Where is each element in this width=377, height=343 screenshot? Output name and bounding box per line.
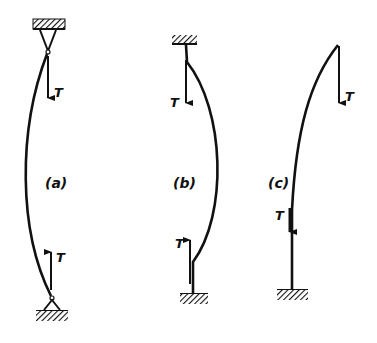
top-support-a bbox=[33, 19, 65, 29]
force-label-top-c: T bbox=[345, 89, 355, 104]
bottom-support-a bbox=[36, 311, 68, 321]
force-label-bottom-c: T bbox=[275, 208, 285, 223]
bottom-pin-a bbox=[44, 300, 60, 310]
force-label-bottom-a: T bbox=[56, 250, 66, 265]
panel-a: T T (a) bbox=[26, 19, 68, 321]
panel-label-c: (c) bbox=[268, 175, 289, 191]
force-label-top-b: T bbox=[170, 95, 180, 110]
force-label-bottom-b: T bbox=[175, 236, 185, 251]
panel-label-a: (a) bbox=[45, 175, 67, 191]
force-label-top-a: T bbox=[54, 85, 64, 100]
panel-label-b: (b) bbox=[173, 175, 196, 191]
panel-b: T T (b) bbox=[170, 35, 217, 304]
bottom-support-b bbox=[180, 294, 208, 304]
buckled-column-c bbox=[292, 45, 338, 290]
top-pin-a bbox=[40, 30, 56, 51]
panel-c: T T (c) bbox=[268, 45, 355, 300]
top-support-b bbox=[172, 35, 197, 44]
buckling-diagram: T T (a) T T (b) T T (c) bbox=[0, 0, 377, 343]
bottom-support-c bbox=[277, 290, 308, 300]
